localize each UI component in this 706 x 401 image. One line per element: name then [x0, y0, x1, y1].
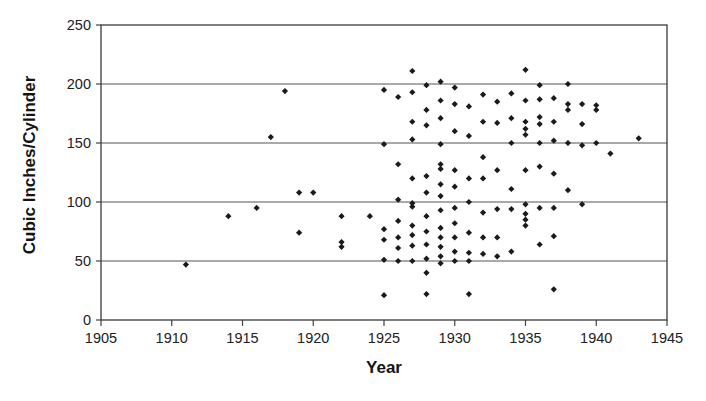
- data-point: [522, 211, 528, 217]
- data-point: [508, 186, 514, 192]
- x-tick-label-1915: 1915: [226, 330, 258, 346]
- data-point: [423, 107, 429, 113]
- data-point: [494, 120, 500, 126]
- y-tick-label-50: 50: [75, 253, 91, 269]
- data-point: [381, 257, 387, 263]
- data-point: [565, 140, 571, 146]
- data-point: [452, 184, 458, 190]
- data-point: [480, 154, 486, 160]
- data-point: [466, 133, 472, 139]
- data-point: [452, 84, 458, 90]
- y-tick-label-100: 100: [67, 194, 91, 210]
- data-point: [225, 213, 231, 219]
- plot-frame: [101, 25, 667, 320]
- plot-area: 050100150200250 190519101915192019251930…: [0, 0, 706, 401]
- data-point: [367, 213, 373, 219]
- data-point: [423, 82, 429, 88]
- data-point: [494, 167, 500, 173]
- data-point: [438, 225, 444, 231]
- data-point: [537, 82, 543, 88]
- data-point: [438, 234, 444, 240]
- data-point: [268, 134, 274, 140]
- data-point: [395, 245, 401, 251]
- data-point: [438, 253, 444, 259]
- data-point: [508, 90, 514, 96]
- data-point: [452, 258, 458, 264]
- x-tick-label-1920: 1920: [297, 330, 329, 346]
- data-point: [565, 81, 571, 87]
- data-point: [480, 92, 486, 98]
- data-point: [395, 218, 401, 224]
- data-point: [466, 258, 472, 264]
- data-point: [466, 175, 472, 181]
- data-point: [480, 234, 486, 240]
- data-point: [381, 237, 387, 243]
- data-point: [537, 121, 543, 127]
- data-point: [480, 251, 486, 257]
- data-point: [423, 241, 429, 247]
- data-point: [508, 115, 514, 121]
- data-point: [636, 135, 642, 141]
- data-point: [381, 226, 387, 232]
- data-point: [466, 250, 472, 256]
- data-point: [466, 230, 472, 236]
- data-point: [438, 166, 444, 172]
- data-point: [551, 95, 557, 101]
- data-point: [423, 291, 429, 297]
- data-point: [508, 206, 514, 212]
- data-point: [537, 241, 543, 247]
- data-point: [381, 292, 387, 298]
- data-point: [565, 187, 571, 193]
- data-point: [409, 89, 415, 95]
- data-point: [494, 234, 500, 240]
- data-point: [296, 189, 302, 195]
- data-point: [522, 126, 528, 132]
- data-point: [579, 121, 585, 127]
- data-point: [508, 248, 514, 254]
- data-point: [551, 286, 557, 292]
- data-point: [423, 213, 429, 219]
- x-tick-label-1910: 1910: [156, 330, 188, 346]
- data-point: [395, 234, 401, 240]
- x-tick-label-1940: 1940: [580, 330, 612, 346]
- data-point: [494, 206, 500, 212]
- data-point: [480, 175, 486, 181]
- data-point: [183, 261, 189, 267]
- data-point: [565, 101, 571, 107]
- data-point: [409, 136, 415, 142]
- data-point: [522, 217, 528, 223]
- y-tick-label-200: 200: [67, 76, 91, 92]
- data-point: [409, 68, 415, 74]
- data-point: [423, 189, 429, 195]
- data-point: [381, 87, 387, 93]
- data-point: [452, 101, 458, 107]
- data-point: [395, 94, 401, 100]
- data-point: [423, 173, 429, 179]
- y-tick-labels-group: 050100150200250: [67, 17, 91, 328]
- data-point: [409, 175, 415, 181]
- data-point: [452, 167, 458, 173]
- y-tick-label-250: 250: [67, 17, 91, 33]
- data-point: [537, 114, 543, 120]
- data-point: [438, 115, 444, 121]
- data-point: [565, 107, 571, 113]
- data-point: [508, 140, 514, 146]
- data-point: [537, 164, 543, 170]
- data-point: [438, 244, 444, 250]
- data-point: [409, 243, 415, 249]
- data-point: [452, 205, 458, 211]
- data-point: [438, 141, 444, 147]
- data-point: [466, 291, 472, 297]
- data-point: [522, 119, 528, 125]
- scatter-chart: Cubic Inches/Cylinder 050100150200250 19…: [0, 0, 706, 401]
- data-point: [522, 132, 528, 138]
- data-point: [409, 223, 415, 229]
- data-point: [466, 199, 472, 205]
- x-tick-label-1945: 1945: [651, 330, 683, 346]
- x-tick-label-1925: 1925: [368, 330, 400, 346]
- data-point: [607, 151, 613, 157]
- data-point: [480, 119, 486, 125]
- data-point: [438, 181, 444, 187]
- data-point: [338, 213, 344, 219]
- data-point: [537, 96, 543, 102]
